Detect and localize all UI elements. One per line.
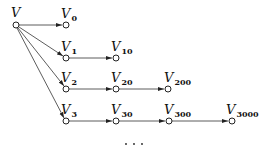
label-V300: V300 — [164, 102, 192, 119]
node-V20 — [113, 86, 119, 92]
label-V30: V30 — [111, 102, 133, 119]
node-V3000 — [229, 118, 235, 124]
edges — [17, 25, 228, 121]
node-V300 — [166, 118, 172, 124]
label-V3: V3 — [61, 102, 77, 119]
label-V10: V10 — [111, 39, 133, 56]
label-V200: V200 — [164, 70, 192, 87]
node-V10 — [113, 55, 119, 61]
node-V0 — [63, 22, 69, 28]
label-V3000: V3000 — [226, 102, 259, 119]
labels: V V0 V1 V10 V2 V20 V200 V3 V30 V300 V300… — [11, 5, 259, 119]
label-V0: V0 — [61, 6, 77, 23]
node-V1 — [63, 55, 69, 61]
edge-V-V1 — [19, 27, 63, 56]
ellipsis — [125, 143, 143, 145]
edge-V-V2 — [18, 28, 64, 86]
label-V2: V2 — [61, 70, 77, 87]
node-V200 — [165, 86, 171, 92]
label-V1: V1 — [61, 39, 77, 56]
node-V3 — [63, 118, 69, 124]
label-V: V — [11, 5, 22, 20]
label-V20: V20 — [111, 70, 133, 87]
tree-diagram: V V0 V1 V10 V2 V20 V200 V3 V30 V300 V300… — [0, 0, 264, 148]
node-V — [13, 22, 19, 28]
node-V2 — [63, 86, 69, 92]
node-V30 — [113, 118, 119, 124]
